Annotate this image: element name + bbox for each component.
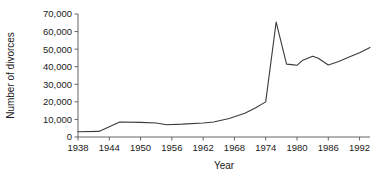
y-tick-label: 60,000 — [43, 26, 72, 37]
x-axis-title: Year — [214, 160, 235, 171]
x-tick-label: 1944 — [99, 142, 120, 153]
x-tick-label: 1956 — [161, 142, 182, 153]
x-tick-label: 1968 — [224, 142, 245, 153]
data-series-line — [78, 22, 370, 132]
chart-plot-area: 010,00020,00030,00040,00050,00060,00070,… — [0, 0, 379, 182]
y-tick-label: 70,000 — [43, 8, 72, 19]
y-tick-label: 10,000 — [43, 114, 72, 125]
x-tick-label: 1986 — [318, 142, 339, 153]
x-axis-tick-labels: 1938194419501956196219681974198019861992 — [67, 142, 370, 153]
x-tick-label: 1980 — [286, 142, 307, 153]
y-axis-tick-labels: 010,00020,00030,00040,00050,00060,00070,… — [43, 8, 72, 142]
x-tick-label: 1992 — [349, 142, 370, 153]
x-tick-label: 1974 — [255, 142, 276, 153]
y-tick-label: 0 — [67, 131, 72, 142]
y-tick-label: 40,000 — [43, 61, 72, 72]
y-tick-label: 30,000 — [43, 79, 72, 90]
y-axis-title: Number of divorces — [5, 32, 16, 119]
x-tick-label: 1938 — [67, 142, 88, 153]
y-tick-label: 50,000 — [43, 44, 72, 55]
y-tick-label: 20,000 — [43, 96, 72, 107]
divorce-line-chart: 010,00020,00030,00040,00050,00060,00070,… — [0, 0, 379, 182]
x-tick-label: 1962 — [193, 142, 214, 153]
x-axis-tick-marks — [78, 137, 360, 141]
x-tick-label: 1950 — [130, 142, 151, 153]
y-axis-tick-marks — [75, 14, 79, 137]
